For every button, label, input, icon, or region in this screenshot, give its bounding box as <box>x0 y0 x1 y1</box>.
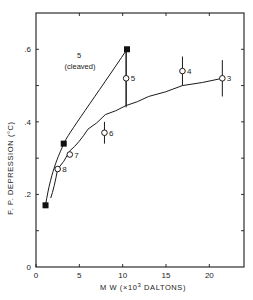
cleaved-curve <box>46 49 127 205</box>
x-tick-label: 5 <box>77 271 82 280</box>
x-axis-title: M W (×103 DALTONS) <box>100 282 186 292</box>
axis-ticks: 051015200.2.4.6 <box>24 13 244 280</box>
point-label: 3 <box>227 74 232 83</box>
open-circle-marker <box>67 152 73 158</box>
x-axis-title-suffix: DALTONS) <box>141 283 186 292</box>
y-tick-label: .4 <box>24 118 31 127</box>
x-axis-title-prefix: M W (×10 <box>100 283 138 292</box>
filled-square-marker <box>124 46 130 52</box>
fitted-curves <box>46 49 223 205</box>
intact-curve <box>51 78 223 198</box>
filled-square-marker <box>61 141 67 147</box>
x-tick-label: 20 <box>205 271 214 280</box>
y-tick-label: 0 <box>27 263 32 272</box>
y-axis-title: F. P. DEPRESSION (°C) <box>6 121 15 214</box>
x-tick-label: 10 <box>118 271 127 280</box>
point-label: 7 <box>74 151 79 160</box>
point-label: 5 <box>131 74 136 83</box>
freezing-point-depression-chart: 051015200.2.4.6 876543 5 (cleaved) M W (… <box>0 0 253 300</box>
x-tick-label: 0 <box>34 271 39 280</box>
plot-frame <box>36 13 244 267</box>
annotation-cleaved: (cleaved) <box>65 62 96 71</box>
open-circle-marker <box>123 76 129 82</box>
point-label: 4 <box>187 67 192 76</box>
point-labels: 876543 <box>62 67 232 174</box>
open-circle-marker <box>180 68 186 74</box>
y-tick-label: .6 <box>24 45 31 54</box>
y-tick-label: .2 <box>24 190 31 199</box>
error-bars <box>104 49 222 143</box>
point-label: 8 <box>62 165 67 174</box>
open-circle-marker <box>55 166 61 172</box>
plot-border <box>36 13 244 267</box>
point-label: 6 <box>109 129 114 138</box>
open-circle-marker <box>220 76 226 82</box>
open-circle-marker <box>102 130 108 136</box>
filled-square-marker <box>43 202 49 208</box>
annotation-series-number: 5 <box>77 51 81 60</box>
x-tick-label: 15 <box>162 271 171 280</box>
